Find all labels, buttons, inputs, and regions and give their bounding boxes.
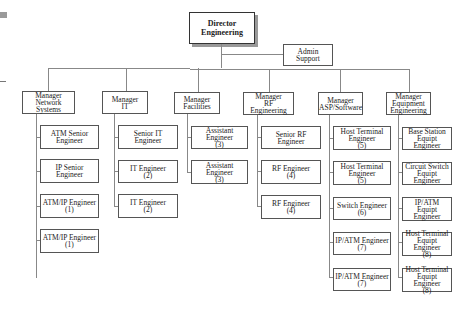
connector xyxy=(198,68,199,92)
report-box: IT Engineer (2) xyxy=(118,160,178,183)
manager-rf-engineering: Manager RF Engineering xyxy=(243,92,294,115)
report-box: RF Engineer (4) xyxy=(261,195,321,219)
report-box: ATM/IP Engineer (1) xyxy=(40,194,99,218)
report-box: Circuit Switch Equipt Engineer xyxy=(402,162,452,185)
manager-it: Manager IT xyxy=(102,91,148,114)
manager-network-systems: Manager Network Systems xyxy=(22,91,75,114)
connector xyxy=(257,115,258,207)
report-box: ATM Senior Engineer xyxy=(40,125,99,149)
report-box: IP Senior Engineer xyxy=(40,159,99,183)
director-engineering-box: Director Engineering xyxy=(189,12,255,44)
connector xyxy=(340,69,341,92)
connector xyxy=(398,115,399,277)
page-marker xyxy=(0,12,7,18)
report-box: IP/ATM Equipt Engineer xyxy=(402,197,452,221)
connector xyxy=(187,114,188,172)
report-box: Senior RF Engineer xyxy=(261,126,321,149)
report-box: Host Terminal Engineer (5) xyxy=(333,161,391,185)
connector xyxy=(409,69,410,92)
report-box: Assistant Engineer (3) xyxy=(191,126,248,149)
report-box: IT Engineer (2) xyxy=(118,194,178,218)
manager-facilities: Manager Facilities xyxy=(174,92,220,114)
report-box: IP/ATM Engineer (7) xyxy=(333,268,391,291)
org-chart: Director Engineering Admin Support Manag… xyxy=(0,0,472,313)
connector xyxy=(114,114,115,207)
report-box: Switch Engineer (6) xyxy=(333,197,391,220)
connector xyxy=(269,69,270,92)
report-box: Host Terminal Equipt Engineer (8) xyxy=(402,268,452,292)
manager-asp-software: Manager ASP/Software xyxy=(318,92,363,115)
report-box: Base Station Equipt Engineer xyxy=(402,127,452,150)
connector xyxy=(48,68,190,69)
connector xyxy=(329,115,330,277)
connector xyxy=(221,44,222,68)
report-box: Senior IT Engineer xyxy=(118,125,178,149)
report-box: Assistant Engineer (3) xyxy=(191,160,248,184)
admin-support-box: Admin Support xyxy=(283,44,333,66)
report-box: IP/ATM Engineer (7) xyxy=(333,232,391,255)
connector xyxy=(36,114,37,278)
page-rule xyxy=(0,81,6,82)
connector xyxy=(126,68,127,92)
report-box: RF Engineer (4) xyxy=(261,160,321,184)
report-box: ATM/IP Engineer (1) xyxy=(40,229,99,253)
connector xyxy=(221,54,284,55)
report-box: Host Terminal Equipt Engineer (8) xyxy=(402,232,452,256)
connector xyxy=(48,68,49,92)
report-box: Host Terminal Engineer (5) xyxy=(333,126,391,150)
connector xyxy=(190,69,410,70)
manager-equipment-engineering: Manager Equipment Engineering xyxy=(386,92,431,115)
